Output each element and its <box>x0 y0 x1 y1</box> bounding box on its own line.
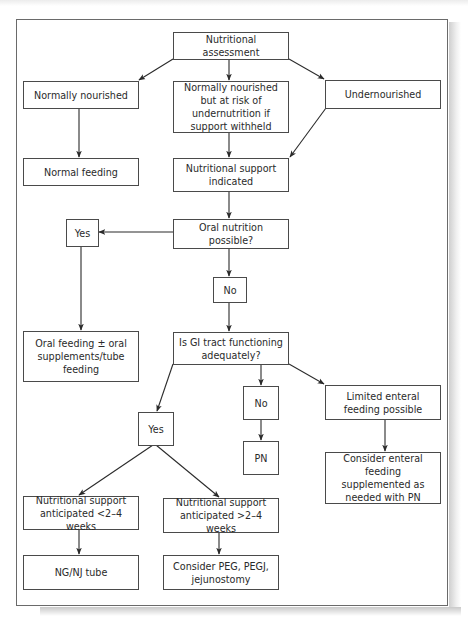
node-oral-yes: Yes <box>66 219 99 247</box>
node-support-indicated: Nutritional support indicated <box>173 158 289 192</box>
node-gi-no: No <box>243 386 279 420</box>
node-label: Limited enteral feeding possible <box>329 390 437 416</box>
node-gi-yes: Yes <box>138 412 174 446</box>
edge-assessment-normally-nourished <box>139 59 173 80</box>
node-label: No <box>254 397 267 410</box>
node-label: Nutritional assessment <box>177 33 285 59</box>
node-label: Normal feeding <box>44 166 118 179</box>
node-label: Nutritional support anticipated >2–4 wee… <box>167 496 275 535</box>
edge-undernourished-support-indicated <box>290 108 326 157</box>
node-label: Normally nourished but at risk of undern… <box>177 81 285 133</box>
edge-gi-yes <box>157 364 173 411</box>
node-oral-feeding: Oral feeding ± oral supplements/tube fee… <box>23 331 139 382</box>
edge-assessment-undernourished <box>289 59 324 79</box>
node-normally-nourished: Normally nourished <box>23 81 139 109</box>
node-ng-nj-tube: NG/NJ tube <box>23 555 139 590</box>
node-label: Consider PEG, PEGJ, jejunostomy <box>172 560 270 586</box>
node-label: Yes <box>75 227 91 240</box>
node-label: Normally nourished <box>34 89 128 102</box>
node-nutritional-assessment: Nutritional assessment <box>173 32 289 60</box>
node-pn: PN <box>243 441 279 475</box>
node-label: NG/NJ tube <box>55 566 108 579</box>
node-consider-enteral-pn: Consider enteral feeding supplemented as… <box>325 452 441 504</box>
node-oral-possible: Oral nutrition possible? <box>173 219 289 249</box>
node-limited-enteral: Limited enteral feeding possible <box>325 385 441 420</box>
node-label: PN <box>255 452 268 465</box>
node-label: No <box>223 284 236 297</box>
node-undernourished: Undernourished <box>325 80 441 109</box>
node-consider-peg: Consider PEG, PEGJ, jejunostomy <box>163 555 279 590</box>
node-oral-no: No <box>213 277 247 303</box>
node-label: Nutritional support indicated <box>177 162 285 188</box>
node-long-term: Nutritional support anticipated >2–4 wee… <box>163 498 279 533</box>
node-label: Yes <box>148 423 164 436</box>
node-label: Consider enteral feeding supplemented as… <box>329 452 437 504</box>
node-label: Undernourished <box>345 88 422 101</box>
edge-gi-limited-enteral <box>289 364 324 384</box>
node-short-term: Nutritional support anticipated <2–4 wee… <box>23 496 139 530</box>
node-label: Nutritional support anticipated <2–4 wee… <box>27 494 135 533</box>
node-at-risk: Normally nourished but at risk of undern… <box>173 81 289 133</box>
edge-yes-long-term <box>156 445 219 497</box>
node-label: Oral nutrition possible? <box>177 221 285 247</box>
node-normal-feeding: Normal feeding <box>23 158 139 186</box>
node-label: Is GI tract functioning adequately? <box>177 336 285 362</box>
node-gi-functioning: Is GI tract functioning adequately? <box>173 332 289 365</box>
node-label: Oral feeding ± oral supplements/tube fee… <box>34 337 128 376</box>
edge-yes-short-term <box>79 445 153 495</box>
